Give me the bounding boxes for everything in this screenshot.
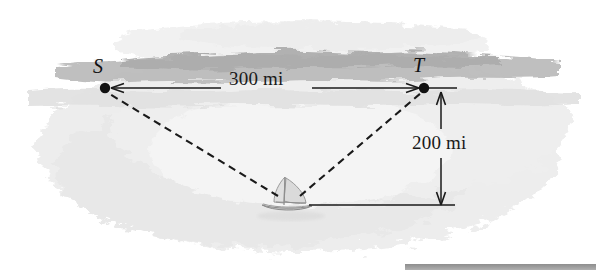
figure-root: S T 300 mi 200 mi [0,0,602,276]
horizon-haze [28,89,578,107]
bottom-rule [405,264,596,270]
sea-highlight [150,94,450,206]
horizon-band [55,51,560,83]
dimension-label-horizontal: 300 mi [224,68,289,90]
point-label-T: T [413,54,424,77]
diagram-canvas [0,0,602,276]
point-T-dot [419,83,429,93]
point-S-dot [100,83,110,93]
point-label-S: S [93,55,103,78]
dimension-label-vertical: 200 mi [408,132,471,154]
